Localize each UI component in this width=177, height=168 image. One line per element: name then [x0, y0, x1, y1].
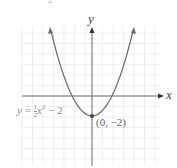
- eq-exp: 2: [42, 103, 46, 111]
- vertex-label: (0, −2): [96, 117, 126, 128]
- eq-sign: =: [25, 104, 31, 116]
- vertex-dot: [90, 114, 94, 118]
- x-axis-label: x: [166, 88, 172, 101]
- x-axis-arrow-icon: [158, 94, 164, 99]
- curve-left-arrow-icon: [48, 27, 53, 34]
- eq-rest: − 2: [48, 104, 62, 116]
- curve-right-arrow-icon: [131, 27, 136, 34]
- y-axis-arrow-icon: [90, 27, 95, 33]
- eq-lhs: y: [17, 104, 22, 116]
- equation-label: y = 12x2 − 2: [17, 104, 63, 119]
- y-axis-label: y: [88, 12, 94, 25]
